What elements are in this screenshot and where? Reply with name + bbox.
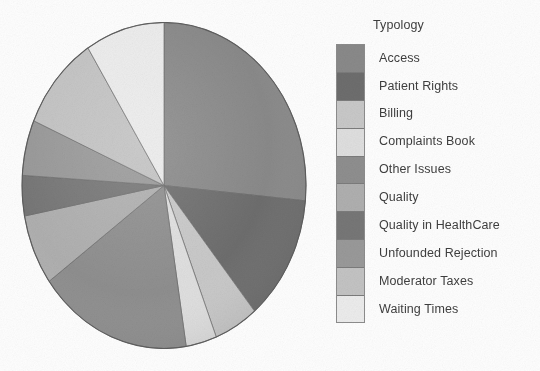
legend: Typology AccessPatient RightsBillingComp… [333,10,540,330]
legend-swatch[interactable] [337,212,364,240]
legend-item[interactable]: Access [379,44,540,72]
legend-item-label: Other Issues [379,163,451,176]
legend-swatch[interactable] [337,73,364,101]
legend-swatch-column [336,44,365,323]
legend-item-label: Billing [379,107,413,120]
legend-item[interactable]: Patient Rights [379,72,540,100]
legend-item[interactable]: Billing [379,100,540,128]
legend-title: Typology [373,18,424,32]
legend-item[interactable]: Other Issues [379,156,540,184]
legend-item[interactable]: Moderator Taxes [379,267,540,295]
pie-outline [22,23,306,349]
legend-item-label: Quality [379,191,419,204]
legend-item-label: Access [379,52,420,65]
legend-item[interactable]: Unfounded Rejection [379,239,540,267]
legend-swatch[interactable] [337,101,364,129]
legend-item-label: Patient Rights [379,80,458,93]
legend-swatch[interactable] [337,296,364,323]
legend-item[interactable]: Waiting Times [379,295,540,323]
pie-chart[interactable] [21,22,307,349]
legend-swatch[interactable] [337,157,364,185]
legend-item[interactable]: Complaints Book [379,128,540,156]
legend-swatch[interactable] [337,268,364,296]
legend-item[interactable]: Quality in HealthCare [379,211,540,239]
pie-chart-figure: Typology AccessPatient RightsBillingComp… [0,0,540,371]
legend-item-label: Unfounded Rejection [379,247,498,260]
legend-item-label: Moderator Taxes [379,275,473,288]
legend-swatch[interactable] [337,240,364,268]
legend-item-label: Waiting Times [379,303,458,316]
legend-swatch[interactable] [337,184,364,212]
legend-swatch[interactable] [337,129,364,157]
legend-item[interactable]: Quality [379,183,540,211]
legend-swatch[interactable] [337,45,364,73]
legend-item-label: Quality in HealthCare [379,219,500,232]
pie-chart-svg [21,22,307,349]
legend-item-label: Complaints Book [379,135,475,148]
legend-label-column: AccessPatient RightsBillingComplaints Bo… [379,44,540,323]
